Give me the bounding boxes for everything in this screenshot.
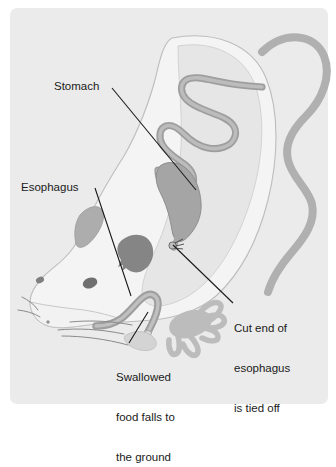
label-swallowed-line-2: food falls to — [116, 411, 175, 424]
label-stomach: Stomach — [54, 80, 99, 93]
label-swallowed-line-1: Swallowed — [116, 371, 175, 384]
label-cut-end-line-2: esophagus — [234, 362, 290, 375]
label-swallowed-food: Swallowed food falls to the ground — [116, 345, 175, 467]
label-cut-end-line-1: Cut end of — [234, 322, 290, 335]
label-swallowed-line-3: the ground — [116, 451, 175, 464]
label-cut-end-of-esophagus: Cut end of esophagus is tied off — [234, 296, 290, 441]
label-esophagus: Esophagus — [21, 181, 79, 194]
label-cut-end-line-3: is tied off — [234, 402, 290, 415]
